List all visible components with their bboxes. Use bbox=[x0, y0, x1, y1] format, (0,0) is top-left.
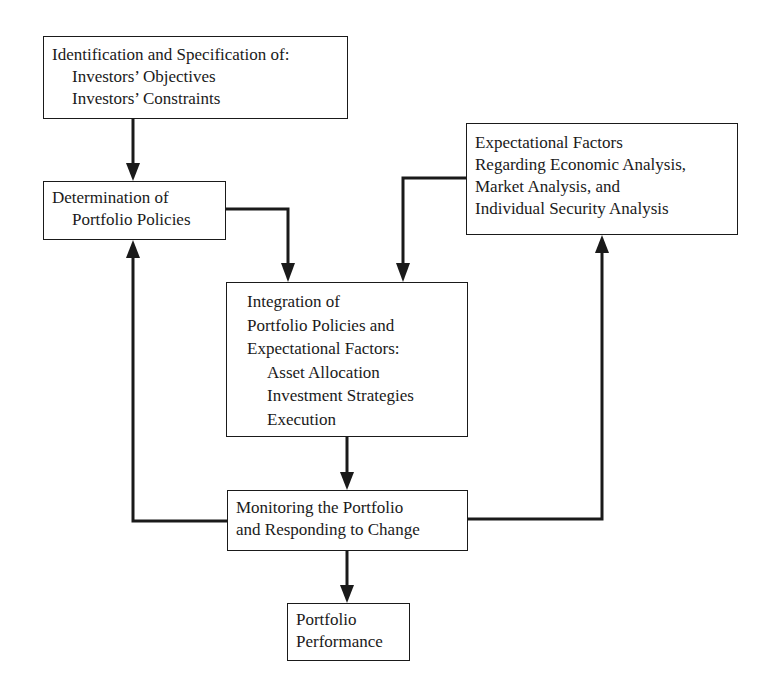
node-item: Investors’ Objectives bbox=[52, 66, 339, 88]
node-item: Asset Allocation bbox=[247, 361, 459, 385]
arrow-monitoring-to-expectational bbox=[467, 250, 602, 519]
node-determination: Determination of Portfolio Policies bbox=[43, 181, 226, 240]
node-monitoring: Monitoring the Portfolio and Responding … bbox=[227, 490, 468, 551]
node-line: Determination of bbox=[52, 187, 217, 209]
node-title: Identification and Specification of: bbox=[52, 44, 339, 66]
node-line: and Responding to Change bbox=[236, 519, 459, 541]
arrowhead-down-icon bbox=[396, 263, 410, 282]
node-line: Monitoring the Portfolio bbox=[236, 497, 459, 519]
node-line: Expectational Factors: bbox=[247, 337, 459, 361]
node-line: Performance bbox=[296, 631, 401, 653]
arrow-expectational-to-integration bbox=[403, 178, 466, 266]
arrowhead-down-icon bbox=[340, 472, 354, 490]
node-line: Portfolio Policies bbox=[52, 209, 217, 231]
node-line: Expectational Factors bbox=[475, 132, 729, 154]
node-line: Portfolio Policies and bbox=[247, 314, 459, 338]
arrowhead-up-icon bbox=[595, 235, 609, 253]
node-performance: Portfolio Performance bbox=[287, 603, 410, 661]
node-line: Individual Security Analysis bbox=[475, 198, 729, 220]
node-expectational: Expectational Factors Regarding Economic… bbox=[466, 123, 738, 235]
arrowhead-down-icon bbox=[340, 585, 354, 603]
arrow-determination-to-integration bbox=[225, 209, 288, 266]
node-line: Portfolio bbox=[296, 609, 401, 631]
node-integration: Integration of Portfolio Policies and Ex… bbox=[226, 282, 468, 437]
node-item: Execution bbox=[247, 408, 459, 432]
arrow-monitoring-to-determination bbox=[133, 255, 227, 521]
node-item: Investors’ Constraints bbox=[52, 88, 339, 110]
node-item: Investment Strategies bbox=[247, 384, 459, 408]
node-line: Integration of bbox=[247, 290, 459, 314]
arrowhead-up-icon bbox=[126, 240, 140, 258]
node-identification: Identification and Specification of: Inv… bbox=[43, 36, 348, 119]
arrowhead-down-icon bbox=[281, 263, 295, 282]
node-line: Regarding Economic Analysis, bbox=[475, 154, 729, 176]
node-line: Market Analysis, and bbox=[475, 176, 729, 198]
arrowhead-down-icon bbox=[126, 163, 140, 181]
